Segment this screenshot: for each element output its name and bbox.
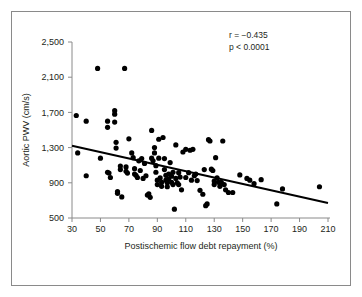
y-tick-label-2100: 2,100 — [41, 72, 64, 82]
data-point — [108, 175, 113, 180]
x-tick-label-190: 190 — [292, 224, 307, 234]
data-point — [177, 174, 182, 179]
data-point — [125, 171, 130, 176]
data-point — [106, 171, 111, 176]
x-axis-tick-labels: 30507090110130150170190210 — [67, 224, 336, 234]
x-tick-label-90: 90 — [152, 224, 162, 234]
data-point — [190, 147, 195, 152]
data-point — [105, 125, 110, 130]
data-point — [259, 177, 264, 182]
y-tick-label-1700: 1,700 — [41, 108, 64, 118]
x-tick-label-110: 110 — [179, 224, 193, 234]
data-point — [84, 173, 89, 178]
x-tick-label-150: 150 — [235, 224, 250, 234]
data-point — [247, 178, 252, 183]
data-point — [112, 119, 117, 124]
y-axis-ticks — [68, 42, 72, 218]
x-tick-label-70: 70 — [124, 224, 134, 234]
data-point — [148, 195, 153, 200]
y-tick-label-900: 900 — [49, 178, 64, 188]
y-axis-title: Aortic PWV (cm/s) — [21, 93, 31, 167]
data-point — [156, 156, 161, 161]
y-tick-label-1300: 1,300 — [41, 143, 64, 153]
data-point — [119, 194, 124, 199]
data-point — [168, 160, 173, 165]
data-point — [159, 184, 164, 189]
data-point — [220, 138, 225, 143]
x-tick-label-130: 130 — [207, 224, 222, 234]
data-point — [237, 172, 242, 177]
data-point-group — [74, 66, 322, 212]
data-point — [105, 119, 110, 124]
x-axis-title: Postischemic flow debt repayment (%) — [124, 241, 277, 251]
scatter-plot: 5009001,3001,7002,1002,500 3050709011013… — [0, 0, 362, 297]
x-tick-label-170: 170 — [264, 224, 279, 234]
y-tick-label-2500: 2,500 — [41, 37, 64, 47]
data-point — [113, 140, 118, 145]
data-point — [84, 119, 89, 124]
data-point — [170, 170, 175, 175]
data-point — [202, 167, 207, 172]
data-point — [115, 191, 120, 196]
data-point — [152, 150, 157, 155]
data-point — [195, 178, 200, 183]
data-point — [126, 136, 131, 141]
data-point — [213, 155, 218, 160]
data-point — [207, 138, 212, 143]
data-point — [132, 166, 137, 171]
data-point — [165, 184, 170, 189]
data-point — [183, 175, 188, 180]
data-point — [179, 187, 184, 192]
data-point — [112, 112, 117, 117]
data-point — [189, 178, 194, 183]
pvalue-annotation: p < 0.0001 — [229, 42, 270, 52]
data-point — [74, 113, 79, 118]
data-point — [122, 66, 127, 71]
data-point — [135, 175, 140, 180]
data-point — [162, 156, 167, 161]
y-axis-tick-labels: 5009001,3001,7002,1002,500 — [41, 37, 64, 223]
data-point — [172, 207, 177, 212]
data-point — [317, 184, 322, 189]
data-point — [210, 168, 215, 173]
x-axis-ticks — [72, 218, 328, 222]
data-point — [152, 145, 157, 150]
data-point — [160, 135, 165, 140]
data-point — [153, 170, 158, 175]
correlation-annotation: r = −0.435 — [229, 30, 268, 40]
figure-container: 5009001,3001,7002,1002,500 3050709011013… — [0, 0, 362, 297]
data-point — [274, 201, 279, 206]
data-point — [118, 167, 123, 172]
y-tick-label-500: 500 — [49, 213, 64, 223]
x-tick-label-50: 50 — [95, 224, 105, 234]
x-tick-label-30: 30 — [67, 224, 77, 234]
data-point — [75, 150, 80, 155]
data-point — [173, 142, 178, 147]
x-tick-label-210: 210 — [320, 224, 335, 234]
data-point — [230, 190, 235, 195]
data-point — [138, 168, 143, 173]
data-point — [143, 173, 148, 178]
data-point — [113, 145, 118, 150]
data-point — [158, 175, 163, 180]
data-point — [280, 186, 285, 191]
data-point — [205, 201, 210, 206]
data-point — [129, 150, 134, 155]
data-point — [176, 182, 181, 187]
data-point — [95, 66, 100, 71]
data-point — [200, 192, 205, 197]
data-point — [98, 156, 103, 161]
data-point — [222, 182, 227, 187]
data-point — [149, 128, 154, 133]
